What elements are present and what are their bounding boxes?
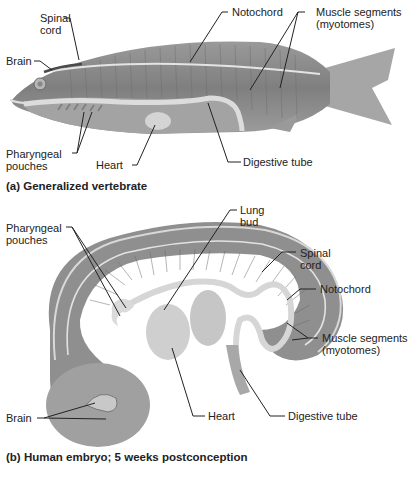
label-heart-b: Heart (208, 410, 235, 422)
fish-illustration (10, 41, 395, 134)
label-text: Lung (240, 204, 264, 216)
label-notochord-b: Notochord (320, 283, 371, 295)
label-muscle-segments-a: Muscle segments (myotomes) (316, 6, 402, 30)
label-text: (myotomes) (322, 344, 408, 356)
diagram-artwork (0, 0, 418, 479)
label-text: Muscle segments (322, 332, 408, 344)
label-digestive-tube-a: Digestive tube (243, 156, 313, 168)
label-pharyngeal-pouches-b: Pharyngeal pouches (6, 222, 62, 246)
label-text: Spinal (300, 247, 331, 259)
label-text: Spinal (40, 12, 71, 24)
label-heart-a: Heart (96, 159, 123, 171)
label-text: cord (40, 24, 71, 36)
label-text: pouches (6, 234, 62, 246)
label-brain-a: Brain (6, 55, 32, 67)
label-digestive-tube-b: Digestive tube (288, 410, 358, 422)
label-text: cord (300, 259, 331, 271)
label-text: Pharyngeal (6, 222, 62, 234)
label-spinal-cord-a: Spinal cord (40, 12, 71, 36)
label-text: Pharyngeal (6, 148, 62, 160)
label-brain-b: Brain (6, 412, 32, 424)
label-spinal-cord-b: Spinal cord (300, 247, 331, 271)
label-lung-bud-b: Lung bud (240, 204, 264, 228)
caption-panel-b: (b) Human embryo; 5 weeks postconception (6, 451, 248, 463)
label-text: bud (240, 216, 264, 228)
label-muscle-segments-b: Muscle segments (myotomes) (322, 332, 408, 356)
label-text: (myotomes) (316, 18, 402, 30)
label-notochord-a: Notochord (232, 6, 283, 18)
label-text: pouches (6, 160, 62, 172)
caption-panel-a: (a) Generalized vertebrate (6, 180, 147, 192)
label-pharyngeal-pouches-a: Pharyngeal pouches (6, 148, 62, 172)
label-text: Muscle segments (316, 6, 402, 18)
